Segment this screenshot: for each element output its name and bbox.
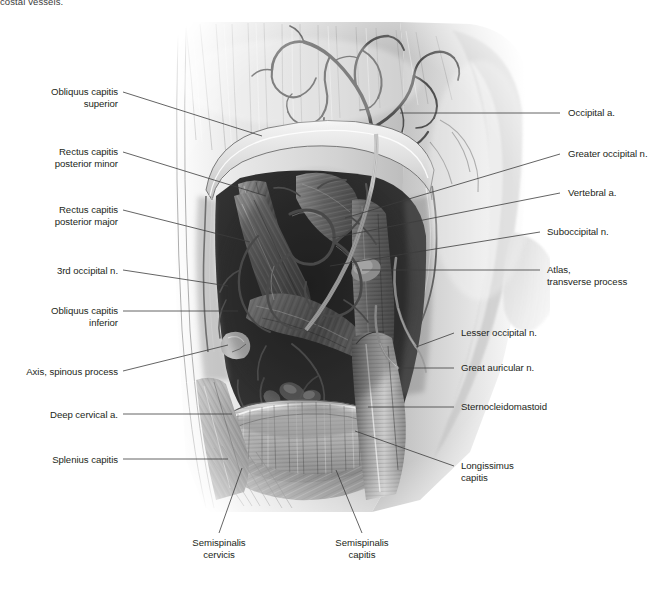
label-occipital-a: Occipital a. xyxy=(568,107,615,119)
label-atlas-transverse-process: Atlas, transverse process xyxy=(547,264,627,287)
plate-artwork xyxy=(172,22,557,512)
label-sternocleidomastoid: Sternocleidomastoid xyxy=(461,401,547,413)
label-great-auricular-n: Great auricular n. xyxy=(461,362,534,374)
label-semispinalis-cervicis: Semispinalis cervicis xyxy=(180,537,258,560)
label-vertebral-a: Vertebral a. xyxy=(568,187,616,199)
label-lesser-occipital-n: Lesser occipital n. xyxy=(461,327,537,339)
label-rectus-capitis-posterior-major: Rectus capitis posterior major xyxy=(28,204,118,227)
label-rectus-capitis-posterior-minor: Rectus capitis posterior minor xyxy=(28,146,118,169)
label-obliquus-capitis-superior: Obliquus capitis superior xyxy=(38,86,118,109)
anatomical-plate-page: costal vessels. xyxy=(0,0,672,591)
label-axis-spinous-process: Axis, spinous process xyxy=(18,366,118,378)
label-splenius-capitis: Splenius capitis xyxy=(42,454,118,466)
label-third-occipital-n: 3rd occipital n. xyxy=(40,265,118,277)
label-semispinalis-capitis: Semispinalis capitis xyxy=(325,537,399,560)
label-obliquus-capitis-inferior: Obliquus capitis inferior xyxy=(36,305,118,328)
label-deep-cervical-a: Deep cervical a. xyxy=(40,409,118,421)
label-longissimus-capitis: Longissimus capitis xyxy=(461,460,514,483)
label-suboccipital-n: Suboccipital n. xyxy=(547,226,609,238)
label-greater-occipital-n: Greater occipital n. xyxy=(568,148,648,160)
